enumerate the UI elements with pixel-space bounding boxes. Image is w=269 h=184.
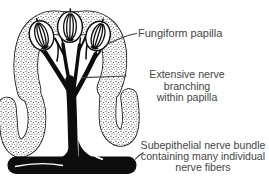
nerve-tree [39,37,101,159]
fungiform-papilla-figure: Fungiform papilla Extensive nerve branch… [0,0,269,184]
fungiform-papilla-label: Fungiform papilla [138,27,222,39]
nerve-bundle-label: Subepithelial nerve bundle containing ma… [140,140,266,173]
nerve-branching-label-line2: within papilla [126,92,248,104]
nerve-branching-label-line1: Extensive nerve branching [126,69,248,92]
nerve-bundle-label-line3: nerve fibers [140,162,266,173]
nerve-branching-label: Extensive nerve branching within papilla [126,69,248,104]
